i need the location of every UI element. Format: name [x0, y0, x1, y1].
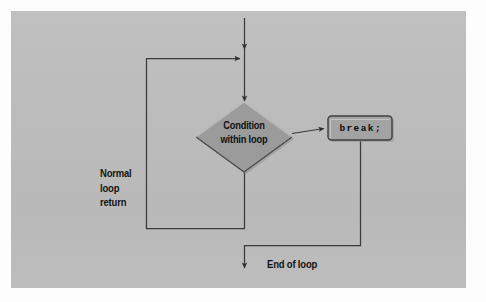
- decision-label-line1: Condition: [202, 119, 286, 133]
- decision-label-line2: within loop: [202, 133, 286, 147]
- flowchart-graphics: [0, 0, 486, 302]
- break-branch-edge: [292, 129, 324, 134]
- decision-label: Condition within loop: [202, 119, 286, 146]
- break-statement-label: break;: [331, 123, 389, 134]
- end-of-loop-label: End of loop: [267, 257, 317, 272]
- normal-loop-return-label: Normal loop return: [100, 166, 132, 210]
- figure-canvas: Condition within loop break; Normal loop…: [0, 0, 486, 302]
